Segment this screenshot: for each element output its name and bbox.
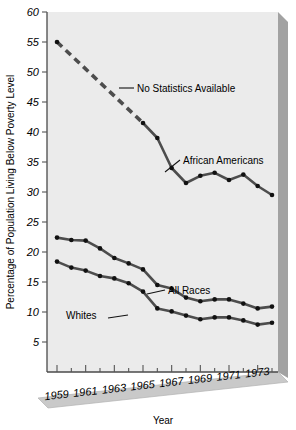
data-point <box>126 281 131 286</box>
data-point <box>198 299 203 304</box>
data-point <box>141 267 146 272</box>
y-tick-label: 50 <box>27 66 40 78</box>
y-tick-label: 5 <box>33 336 40 348</box>
data-point <box>83 238 88 243</box>
y-tick-label: 20 <box>26 246 40 258</box>
data-point <box>69 265 74 270</box>
data-point <box>255 322 260 327</box>
data-point <box>112 276 117 281</box>
data-point <box>255 306 260 311</box>
data-point <box>112 256 117 261</box>
data-point <box>55 235 60 240</box>
data-point <box>212 315 217 320</box>
data-point <box>126 261 131 266</box>
data-point <box>55 259 60 264</box>
data-point <box>255 184 260 189</box>
y-axis-ticks: 51015202530354045505560 <box>26 6 47 348</box>
data-point <box>98 246 103 251</box>
data-point <box>141 121 146 126</box>
poverty-line-chart: 51015202530354045505560 1959196119631965… <box>0 0 296 430</box>
data-point <box>169 309 174 314</box>
data-point <box>241 172 246 177</box>
data-point <box>155 283 160 288</box>
data-point <box>98 274 103 279</box>
data-point <box>69 238 74 243</box>
data-point <box>155 136 160 141</box>
data-point <box>241 301 246 306</box>
data-point <box>270 193 275 198</box>
annotation-whites: Whites <box>66 310 97 321</box>
y-tick-label: 40 <box>27 126 40 138</box>
data-point <box>270 304 275 309</box>
data-point <box>212 171 217 176</box>
chart-right-shadow <box>278 12 288 378</box>
y-tick-label: 45 <box>27 96 40 108</box>
data-point <box>155 306 160 311</box>
y-tick-label: 25 <box>26 216 40 228</box>
data-point <box>227 297 232 302</box>
y-tick-label: 55 <box>27 36 40 48</box>
y-tick-label: 15 <box>27 276 40 288</box>
data-point <box>198 317 203 322</box>
y-axis-title: Percentage of Population Living Below Po… <box>5 75 16 310</box>
data-point <box>270 321 275 326</box>
data-point <box>55 40 60 45</box>
data-point <box>184 181 189 186</box>
data-point <box>184 313 189 318</box>
data-point <box>212 297 217 302</box>
y-tick-label: 30 <box>27 186 40 198</box>
y-tick-label: 35 <box>27 156 40 168</box>
data-point <box>227 315 232 320</box>
annotation-african-americans: African Americans <box>183 155 264 166</box>
y-tick-label: 60 <box>27 6 40 18</box>
annotation-all-races: All Races <box>168 285 210 296</box>
data-point <box>241 318 246 323</box>
data-point <box>198 174 203 179</box>
annotation-no-statistics: No Statistics Available <box>137 83 236 94</box>
y-tick-label: 10 <box>27 306 40 318</box>
data-point <box>83 268 88 273</box>
data-point <box>141 289 146 294</box>
x-axis-title: Year <box>153 415 174 426</box>
data-point <box>227 178 232 183</box>
